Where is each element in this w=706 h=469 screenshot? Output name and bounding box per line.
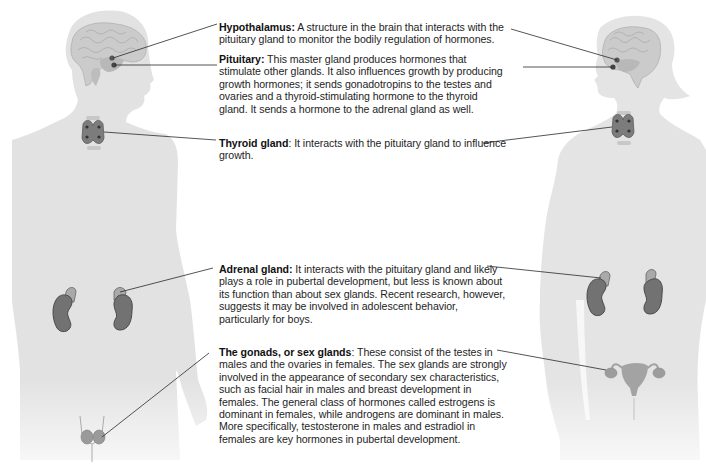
annotation-adrenal: Adrenal gland: It interacts with the pit… [219,263,509,325]
desc-gonads: : These consist of the testes in males a… [219,346,507,445]
term-thyroid: Thyroid gland [219,137,288,149]
term-pituitary: Pituitary: [219,53,264,65]
term-gonads: The gonads, or sex glands [219,346,351,358]
annotation-thyroid: Thyroid gland: It interacts with the pit… [219,137,509,162]
male-silhouette [12,11,207,460]
term-hypothalamus: Hypothalamus: [219,21,295,33]
annotation-gonads: The gonads, or sex glands: These consist… [219,346,509,445]
female-figure [540,16,706,460]
annotation-hypothalamus: Hypothalamus: A structure in the brain t… [219,21,509,46]
male-figure [12,11,207,462]
term-adrenal: Adrenal gland: [219,263,292,275]
female-silhouette [540,16,706,460]
female-ovary-left [605,368,617,378]
annotation-pituitary: Pituitary: This master gland produces ho… [219,53,509,115]
